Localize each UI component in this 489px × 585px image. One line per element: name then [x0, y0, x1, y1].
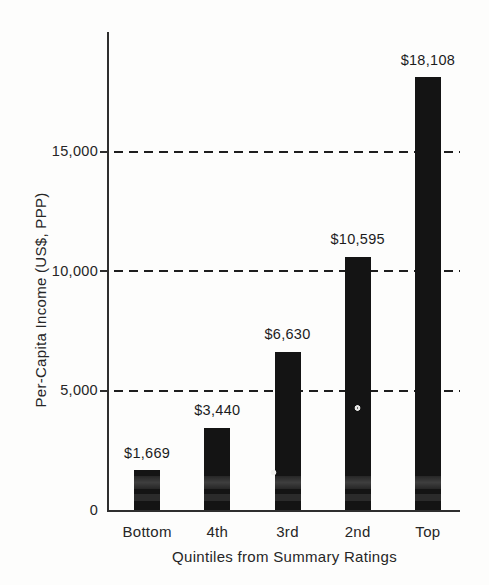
x-tick-label-3rd: 3rd	[276, 524, 299, 539]
x-tick-label-4th: 4th	[206, 524, 228, 539]
bar-4th	[204, 428, 230, 510]
bar-value-label: $3,440	[194, 403, 240, 418]
plot-area: 05,00010,00015,000 $1,669$3,440$6,630$10…	[107, 32, 460, 512]
bar-value-label: $10,595	[330, 232, 385, 247]
bar-2nd	[345, 257, 371, 510]
bar-top	[415, 77, 441, 510]
bar-value-label: $1,669	[124, 446, 170, 461]
x-axis-title: Quintiles from Summary Ratings	[172, 548, 397, 565]
y-tick-mark	[100, 390, 107, 392]
bar-value-label: $18,108	[401, 53, 456, 68]
x-tick-label-top: Top	[415, 524, 440, 539]
y-axis-title: Per-Capita Income (US$, PPP)	[32, 192, 49, 407]
x-tick-label-2nd: 2nd	[345, 524, 371, 539]
bar-3rd	[275, 352, 301, 510]
y-tick-mark	[100, 151, 107, 153]
gridline-15000	[114, 151, 460, 153]
y-tick-label: 10,000	[52, 264, 98, 279]
y-tick-label: 5,000	[60, 383, 98, 398]
gridline-10000	[114, 270, 460, 272]
y-tick-label: 15,000	[52, 144, 98, 159]
bar-chart-figure: Per-Capita Income (US$, PPP) 05,00010,00…	[0, 0, 489, 585]
bar-bottom	[134, 470, 160, 510]
y-tick-mark	[100, 270, 107, 272]
bar-value-label: $6,630	[264, 327, 310, 342]
x-tick-label-bottom: Bottom	[122, 524, 171, 539]
y-tick-label: 0	[90, 503, 98, 518]
